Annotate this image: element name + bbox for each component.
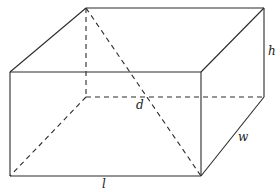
edge-bottom-right-width — [201, 97, 264, 176]
label-length: l — [102, 178, 106, 190]
edge-top-right-depth — [201, 8, 264, 72]
edge-top-left-depth — [10, 8, 86, 72]
label-height: h — [268, 45, 276, 57]
label-diagonal: d — [136, 99, 144, 111]
rectangular-prism-diagram: h d w l — [0, 0, 278, 196]
space-diagonal — [86, 8, 201, 176]
label-width: w — [238, 131, 248, 143]
hidden-edge-bottom-left-depth — [10, 97, 86, 176]
